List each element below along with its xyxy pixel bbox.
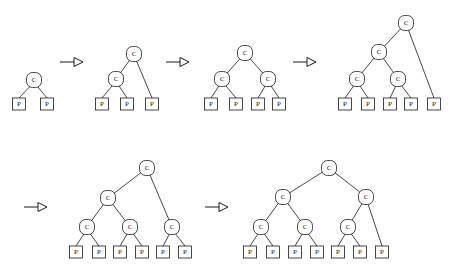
- internal-node-s5c1: C: [101, 191, 116, 206]
- node-label: P: [150, 100, 154, 108]
- node-label: P: [183, 248, 187, 256]
- arrow-head-icon: [219, 203, 228, 212]
- tree-edge: [383, 58, 393, 73]
- tree-edge: [38, 87, 47, 98]
- leaf-node-s6p5: P: [354, 246, 367, 258]
- tree-edge: [175, 234, 185, 246]
- tree-edge: [90, 234, 99, 246]
- tree-edge: [352, 203, 362, 220]
- internal-node-s4c3: C: [391, 72, 406, 87]
- node-label: P: [293, 248, 297, 256]
- internal-node-s5c0: C: [140, 161, 155, 176]
- tree-edge: [401, 86, 411, 98]
- tree-edge: [114, 173, 141, 194]
- node-label: C: [346, 223, 351, 231]
- tree-edge: [91, 204, 103, 221]
- tree-nodes-step-4: CCCCPPPPP: [339, 16, 441, 111]
- transition-arrow-4: [24, 203, 47, 212]
- tree-edge: [102, 86, 112, 98]
- transition-arrow-3: [293, 58, 316, 67]
- tree-edge: [289, 172, 322, 193]
- tree-edge: [120, 60, 129, 73]
- node-label: P: [100, 100, 104, 108]
- node-label: C: [327, 164, 332, 172]
- tree-edge: [227, 59, 240, 74]
- node-label: C: [364, 193, 369, 201]
- node-label: C: [132, 50, 137, 58]
- internal-node-s6c0: C: [322, 161, 337, 176]
- node-label: P: [380, 248, 384, 256]
- leaf-node-s5p3: P: [136, 246, 149, 258]
- arrow-head-icon: [38, 203, 47, 212]
- node-label: C: [355, 75, 360, 83]
- tree-edge: [408, 30, 434, 98]
- arrow-head-icon: [180, 58, 189, 67]
- tree-edge: [360, 86, 368, 98]
- node-label: P: [97, 248, 101, 256]
- node-label: P: [140, 248, 144, 256]
- tree-edge: [295, 234, 302, 246]
- tree-edge: [120, 234, 127, 246]
- node-label: P: [234, 100, 238, 108]
- leaf-node-s6p3: P: [311, 246, 324, 258]
- transition-arrow-5: [205, 203, 228, 212]
- node-label: P: [315, 248, 319, 256]
- node-label: C: [396, 75, 401, 83]
- node-label: C: [266, 75, 271, 83]
- internal-node-s6c4: C: [298, 220, 313, 235]
- leaf-node-s6p6: P: [376, 246, 389, 258]
- tree-nodes-step-3: CCCPPPP: [205, 46, 286, 111]
- tree-edge: [137, 61, 152, 98]
- tree-edge: [384, 28, 401, 46]
- leaf-node-s5p4: P: [157, 246, 170, 258]
- node-label: P: [277, 100, 281, 108]
- arrow-head-icon: [307, 58, 316, 67]
- tree-edge: [308, 234, 317, 246]
- tree-edge: [133, 234, 142, 246]
- tree-nodes-step-6: CCCCCCPPPPPPP: [244, 161, 389, 259]
- tree-edge: [265, 203, 278, 221]
- tree-edge: [338, 234, 345, 246]
- internal-node-s4c1: C: [372, 45, 387, 60]
- leaf-node-s5p1: P: [93, 246, 106, 258]
- node-label: C: [243, 49, 248, 57]
- leaf-node-s5p5: P: [179, 246, 192, 258]
- node-label: P: [336, 248, 340, 256]
- leaf-node-s2p2: P: [146, 98, 159, 110]
- tree-edges-step-5: [76, 173, 185, 246]
- node-label: P: [432, 100, 436, 108]
- node-label: P: [343, 100, 347, 108]
- tree-sequence-canvas: CPPCCPPPCCCPPPPCCCCPPPPPCCCCCPPPPPPCCCCC…: [0, 0, 449, 275]
- node-label: C: [170, 223, 175, 231]
- tree-edge: [287, 203, 300, 221]
- tree-nodes-step-5: CCCCCPPPPPP: [70, 161, 192, 259]
- internal-node-s6c2: C: [359, 190, 374, 205]
- tree-edge: [368, 204, 382, 246]
- node-label: P: [118, 248, 122, 256]
- transition-arrow-2: [166, 58, 189, 67]
- tree-edge: [351, 234, 360, 246]
- node-label: C: [128, 223, 133, 231]
- internal-node-s4c0: C: [399, 16, 414, 31]
- tree-edges-step-6: [250, 172, 382, 246]
- internal-node-s2c0: C: [127, 47, 142, 62]
- tree-edge: [211, 86, 219, 98]
- tree-edge: [390, 86, 396, 98]
- leaf-node-s3p2: P: [252, 98, 265, 110]
- transition-arrow-1: [60, 58, 83, 67]
- node-label: C: [85, 223, 90, 231]
- internal-node-s5c4: C: [165, 220, 180, 235]
- internal-node-s6c5: C: [341, 220, 356, 235]
- leaf-node-s4p0: P: [339, 98, 352, 110]
- node-label: P: [45, 100, 49, 108]
- node-label: C: [259, 223, 264, 231]
- tree-edge: [226, 86, 236, 98]
- tree-edge: [119, 86, 127, 98]
- internal-node-s6c1: C: [276, 190, 291, 205]
- tree-nodes-step-2: CCPPP: [96, 47, 159, 111]
- node-label: C: [145, 164, 150, 172]
- node-label: P: [366, 100, 370, 108]
- node-label: C: [106, 194, 111, 202]
- leaf-node-s1p0: P: [13, 98, 26, 110]
- nodes-layer: CPPCCPPPCCCPPPPCCCCPPPPPCCCCCPPPPPPCCCCC…: [13, 16, 441, 259]
